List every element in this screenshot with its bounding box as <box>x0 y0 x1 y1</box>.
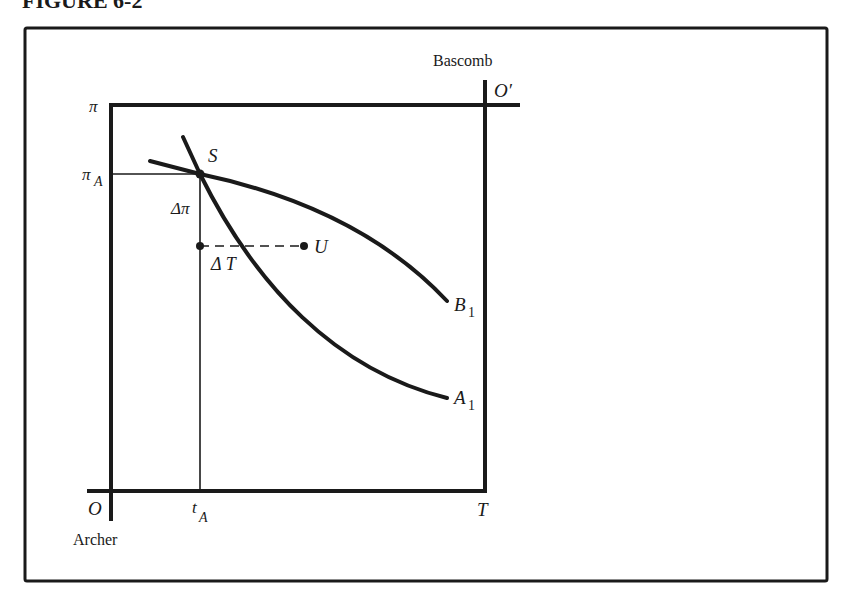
svg-text:1: 1 <box>468 398 475 413</box>
svg-text:1: 1 <box>468 305 475 320</box>
point-u-label: U <box>314 236 329 257</box>
pi-a-label: π A <box>82 165 103 189</box>
point-u-dot <box>300 242 308 250</box>
bascomb-origin-label: O′ <box>494 80 513 101</box>
point-dashed-start-dot <box>196 242 204 250</box>
t-a-label: t A <box>192 498 208 525</box>
point-s-label: S <box>208 145 218 166</box>
svg-text:A: A <box>198 510 208 525</box>
svg-text:A: A <box>452 387 466 408</box>
archer-origin-label: O <box>88 498 102 519</box>
pi-axis-label: π <box>89 97 98 116</box>
t-axis-end-label: T <box>477 499 489 520</box>
svg-text:B: B <box>454 294 466 315</box>
edgeworth-box-diagram: FIGURE 6-2 π π A S Δπ Δ T U B 1 A 1 Basc… <box>0 0 847 604</box>
point-s-dot <box>196 170 205 179</box>
delta-pi-label: Δπ <box>170 199 190 218</box>
figure-title: FIGURE 6-2 <box>22 0 142 13</box>
figure-frame <box>25 28 827 581</box>
svg-text:t: t <box>192 498 198 517</box>
bascomb-label: Bascomb <box>433 52 493 69</box>
curve-b1 <box>150 161 447 301</box>
curve-a1-label: A 1 <box>452 387 475 413</box>
svg-text:A: A <box>93 174 103 189</box>
curve-b1-label: B 1 <box>454 294 475 320</box>
delta-t-label: Δ T <box>210 254 238 274</box>
svg-text:π: π <box>82 165 91 184</box>
archer-label: Archer <box>73 531 118 548</box>
